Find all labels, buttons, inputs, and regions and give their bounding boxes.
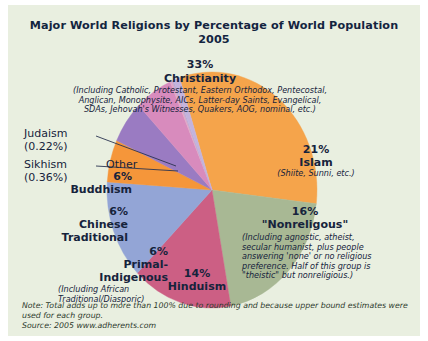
christianity-name: Christianity (70, 72, 330, 85)
buddhism-name: Buddhism (46, 183, 132, 196)
footnote: Note: Total adds up to more than 100% du… (22, 301, 412, 331)
slice-label-sikhism: Sikhism (0.36%) (24, 158, 96, 184)
primal-percent: 6% (58, 245, 168, 258)
slice-label-other: Other (106, 153, 158, 172)
nonreligious-detail: (Including agnostic, atheist, secular hu… (242, 233, 380, 281)
judaism-name: Judaism (24, 127, 96, 140)
chinese-percent: 6% (36, 205, 128, 218)
footnote-source: Source: 2005 www.adherents.com (22, 321, 412, 331)
slice-label-primal-indigenous: 6% Primal-Indigenous (Including African … (58, 245, 168, 304)
slice-label-nonreligious: 16% "Nonreligous" (Including agnostic, a… (230, 205, 380, 281)
slice-label-islam: 21% Islam (Shiite, Sunni, etc.) (248, 143, 384, 179)
primal-name: Primal-Indigenous (58, 258, 168, 284)
nonreligious-percent: 16% (230, 205, 380, 218)
nonreligious-name: "Nonreligous" (230, 218, 380, 231)
slice-label-chinese-traditional: 6% Chinese Traditional (36, 205, 128, 244)
sikhism-name: Sikhism (24, 158, 96, 171)
judaism-percent: (0.22%) (24, 140, 96, 153)
chart-page: Major World Religions by Percentage of W… (0, 0, 428, 341)
christianity-detail: (Including Catholic, Protestant, Eastern… (70, 86, 330, 115)
islam-percent: 21% (248, 143, 384, 156)
sikhism-percent: (0.36%) (24, 171, 96, 184)
islam-detail: (Shiite, Sunni, etc.) (248, 169, 384, 179)
other-name: Other (106, 158, 137, 171)
christianity-percent: 33% (187, 58, 213, 71)
footnote-note: Note: Total adds up to more than 100% du… (22, 301, 412, 321)
chinese-name: Chinese Traditional (36, 218, 128, 244)
chart-panel: Major World Religions by Percentage of W… (8, 5, 420, 336)
slice-label-christianity: 33% Christianity (Including Catholic, Pr… (70, 53, 330, 115)
slice-label-judaism: Judaism (0.22%) (24, 127, 96, 153)
